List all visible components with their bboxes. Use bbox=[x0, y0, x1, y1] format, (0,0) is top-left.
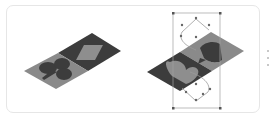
handle-bottom-right[interactable] bbox=[219, 107, 222, 110]
anchor-point[interactable] bbox=[180, 35, 182, 37]
anchor-point[interactable] bbox=[185, 91, 187, 93]
clipped-edge-marks bbox=[266, 50, 270, 76]
handle-top-left[interactable] bbox=[172, 12, 175, 15]
anchor-point[interactable] bbox=[202, 93, 204, 95]
anchor-point[interactable] bbox=[195, 36, 197, 38]
anchor-point[interactable] bbox=[195, 17, 197, 19]
handle-bottom-left[interactable] bbox=[172, 107, 175, 110]
anchor-point[interactable] bbox=[209, 88, 211, 90]
left-tile[interactable] bbox=[24, 33, 121, 89]
anchor-point[interactable] bbox=[195, 83, 197, 85]
handle-top-right[interactable] bbox=[219, 12, 222, 15]
anchor-point[interactable] bbox=[181, 24, 183, 26]
anchor-point[interactable] bbox=[208, 24, 210, 26]
illustration-canvas bbox=[0, 0, 273, 120]
right-tile[interactable] bbox=[147, 19, 244, 101]
anchor-point[interactable] bbox=[195, 99, 197, 101]
